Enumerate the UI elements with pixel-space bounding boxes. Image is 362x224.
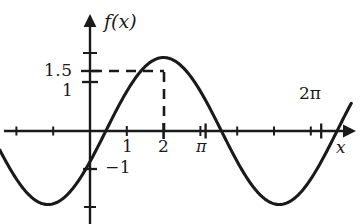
x-tick-label-2: 2 [158, 138, 169, 155]
y-tick-label-1p5: 1.5 [44, 62, 73, 79]
peak-guides [92, 71, 164, 130]
x-axis-arrowhead [343, 125, 356, 138]
plot-canvas [0, 0, 362, 224]
x-tick-label-2pi: 2π [299, 85, 321, 102]
sinusoid-figure: f(x) x 1.5 1 −1 1 2 π 2π [0, 0, 362, 224]
y-tick-label-minus1: −1 [105, 159, 131, 176]
x-tick-label-1: 1 [122, 138, 133, 155]
x-axis [4, 125, 356, 138]
y-axis [84, 14, 97, 224]
y-axis-arrowhead [84, 14, 97, 27]
y-axis-label: f(x) [104, 12, 137, 31]
x-tick-label-pi: π [196, 139, 207, 155]
y-tick-label-1: 1 [62, 82, 73, 99]
x-axis-label: x [336, 139, 346, 156]
